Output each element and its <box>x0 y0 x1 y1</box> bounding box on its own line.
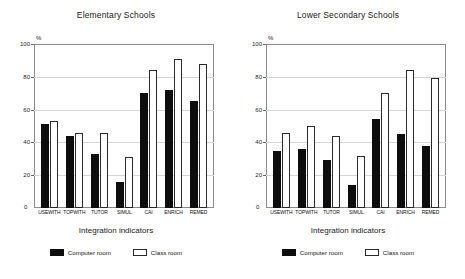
bar <box>332 136 340 208</box>
y-axis-tick-label: 80 <box>255 74 262 80</box>
bar-group <box>418 44 443 208</box>
x-axis-category-label: TOPWITH <box>294 209 318 215</box>
legend-item: Computer room <box>50 249 111 256</box>
x-axis-category-label: USEWITH <box>269 209 293 215</box>
panel-elementary-schools: Elementary Schools % 20406080100 0 USEWI… <box>0 0 232 279</box>
bar <box>165 90 173 208</box>
legend-label: Class room <box>151 249 182 256</box>
plot-area: 20406080100 <box>266 44 446 208</box>
bar <box>298 149 306 208</box>
legend-item: Class room <box>365 249 414 256</box>
y-axis-tick-label: 60 <box>255 107 262 113</box>
bar <box>282 133 290 208</box>
bar-group <box>112 44 137 208</box>
y-axis-tick-label: 40 <box>23 139 30 145</box>
bar-group <box>62 44 87 208</box>
legend-label: Computer room <box>300 249 343 256</box>
legend-swatch <box>282 249 296 256</box>
x-axis-title: Integration indicators <box>232 226 464 235</box>
bar <box>397 134 405 208</box>
bar <box>381 93 389 208</box>
y-axis-tick-label: 100 <box>252 41 262 47</box>
y-axis-tick-label: 60 <box>23 107 30 113</box>
panel-title: Lower Secondary Schools <box>232 10 464 20</box>
x-axis-category-label: REMED <box>419 209 443 215</box>
bar <box>431 78 439 208</box>
bar <box>66 136 74 208</box>
x-axis-title: Integration indicators <box>0 226 232 235</box>
legend-swatch <box>50 249 64 256</box>
bar <box>50 121 58 208</box>
bar <box>199 64 207 208</box>
legend: Computer roomClass room <box>0 249 232 256</box>
bar <box>357 156 365 208</box>
bar <box>91 154 99 208</box>
y-axis-zero-label: 0 <box>24 204 27 210</box>
bar <box>75 133 83 208</box>
bar-group <box>87 44 112 208</box>
bar <box>41 124 49 208</box>
y-axis-tick-label: 20 <box>255 172 262 178</box>
bar-group <box>186 44 211 208</box>
bar <box>422 146 430 208</box>
x-axis-category-label: TOPWITH <box>62 209 86 215</box>
x-axis-category-label: USEWITH <box>37 209 61 215</box>
bar-group <box>269 44 294 208</box>
bar <box>140 93 148 208</box>
bar <box>149 70 157 208</box>
bar-group <box>368 44 393 208</box>
x-axis-category-labels: USEWITHTOPWITHTUTORSIMULCAIENRICHREMED <box>34 209 214 215</box>
x-axis-category-label: CAI <box>137 209 161 215</box>
bar <box>372 119 380 208</box>
x-axis-category-label: ENRICH <box>162 209 186 215</box>
bar-group <box>136 44 161 208</box>
x-axis-category-label: TUTOR <box>87 209 111 215</box>
panel-lower-secondary-schools: Lower Secondary Schools % 20406080100 0 … <box>232 0 464 279</box>
bar <box>125 157 133 208</box>
bar <box>273 151 281 208</box>
legend-item: Computer room <box>282 249 343 256</box>
bar-group <box>161 44 186 208</box>
plot-area: 20406080100 <box>34 44 214 208</box>
x-axis-category-labels: USEWITHTOPWITHTUTORSIMULCAIENRICHREMED <box>266 209 446 215</box>
bar-group <box>319 44 344 208</box>
bar-group <box>294 44 319 208</box>
figure-two-panel-bar-charts: Elementary Schools % 20406080100 0 USEWI… <box>0 0 465 279</box>
y-axis-unit-label: % <box>268 35 273 41</box>
x-axis-category-label: ENRICH <box>394 209 418 215</box>
bar <box>116 182 124 208</box>
bar-group <box>37 44 62 208</box>
y-axis-tick-label: 80 <box>23 74 30 80</box>
legend: Computer roomClass room <box>232 249 464 256</box>
x-axis-category-label: CAI <box>369 209 393 215</box>
legend-swatch <box>365 249 379 256</box>
y-axis-zero-label: 0 <box>256 204 259 210</box>
bar <box>323 160 331 208</box>
y-axis-tick-label: 100 <box>20 41 30 47</box>
bars-layer <box>266 44 446 208</box>
bar <box>190 101 198 208</box>
x-axis-category-label: SIMUL <box>344 209 368 215</box>
x-axis-category-label: TUTOR <box>319 209 343 215</box>
bar <box>100 133 108 208</box>
y-axis-tick-label: 40 <box>255 139 262 145</box>
bar-group <box>344 44 369 208</box>
y-axis-tick-label: 20 <box>23 172 30 178</box>
legend-label: Computer room <box>68 249 111 256</box>
x-axis-category-label: SIMUL <box>112 209 136 215</box>
bar <box>348 185 356 208</box>
bar-group <box>393 44 418 208</box>
bar <box>174 59 182 208</box>
bars-layer <box>34 44 214 208</box>
legend-label: Class room <box>383 249 414 256</box>
legend-swatch <box>133 249 147 256</box>
x-axis-category-label: REMED <box>187 209 211 215</box>
y-axis-unit-label: % <box>36 35 41 41</box>
panel-title: Elementary Schools <box>0 10 232 20</box>
bar <box>307 126 315 208</box>
legend-item: Class room <box>133 249 182 256</box>
bar <box>406 70 414 208</box>
